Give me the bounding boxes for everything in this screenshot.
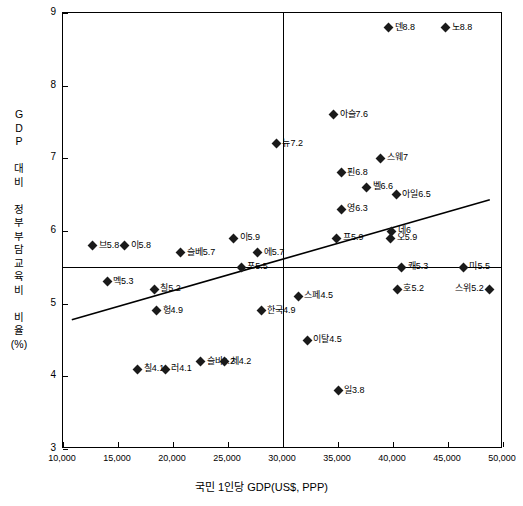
data-point-label: 슬베5.7 <box>187 247 216 257</box>
x-tick-label: 45,000 <box>424 453 470 463</box>
diamond-marker-icon <box>386 233 396 243</box>
diamond-marker-icon <box>384 23 394 33</box>
y-tick-label: 4 <box>36 369 56 380</box>
y-tick <box>63 86 68 87</box>
diamond-marker-icon <box>271 139 281 149</box>
x-tick <box>338 442 339 447</box>
data-point-label: 핀6.8 <box>347 167 368 177</box>
data-point-label: 이5.9 <box>240 232 261 242</box>
diamond-marker-icon <box>256 306 266 316</box>
diamond-marker-icon <box>329 110 339 120</box>
data-point-label: 캐5.3 <box>408 261 429 271</box>
diamond-marker-icon <box>253 248 263 258</box>
diamond-marker-icon <box>229 233 239 243</box>
diamond-marker-icon <box>120 241 130 251</box>
data-point-label: 스위5.2 <box>455 283 484 293</box>
y-tick-label: 9 <box>36 6 56 17</box>
diamond-marker-icon <box>336 168 346 178</box>
diamond-marker-icon <box>458 262 468 272</box>
diamond-marker-icon <box>196 357 206 367</box>
diamond-marker-icon <box>336 204 346 214</box>
x-tick-label: 40,000 <box>369 453 415 463</box>
x-tick <box>503 442 504 447</box>
x-tick <box>448 442 449 447</box>
x-axis-title: 국민 1인당 GDP(US$, PPP) <box>0 478 523 494</box>
diamond-marker-icon <box>485 284 495 294</box>
plot-area: 브5.8멕5.3이5.8칠5.2헝4.9칠4.1러4.1슬베5.7슬바4.2체4… <box>62 12 502 448</box>
data-point-label: 노8.8 <box>452 22 473 32</box>
data-point-label: 에5.7 <box>264 247 285 257</box>
reference-line-horizontal <box>63 267 501 268</box>
data-point-label: 스페4.5 <box>304 290 333 300</box>
diamond-marker-icon <box>302 335 312 345</box>
data-point-label: 영6.3 <box>347 203 368 213</box>
diamond-marker-icon <box>293 291 303 301</box>
x-tick-label: 35,000 <box>314 453 360 463</box>
y-axis-title: GDP 대비 정부부담교육비 비율(%) <box>6 108 32 351</box>
diamond-marker-icon <box>88 241 98 251</box>
diamond-marker-icon <box>236 262 246 272</box>
data-point-label: 포5.5 <box>247 261 268 271</box>
data-point-label: 이탈4.5 <box>313 334 342 344</box>
data-point-label: 프5.9 <box>343 232 364 242</box>
data-point-label: 이5.8 <box>131 240 152 250</box>
x-tick <box>393 442 394 447</box>
x-tick <box>173 442 174 447</box>
data-point-label: 뉴7.2 <box>282 138 303 148</box>
data-point-label: 한국4.9 <box>267 305 296 315</box>
diamond-marker-icon <box>332 233 342 243</box>
data-point-label: 브5.8 <box>99 240 120 250</box>
diamond-marker-icon <box>441 23 451 33</box>
x-tick-label: 50,000 <box>479 453 523 463</box>
x-tick-label: 10,000 <box>39 453 85 463</box>
y-tick <box>63 158 68 159</box>
x-tick-label: 15,000 <box>94 453 140 463</box>
y-tick <box>63 304 68 305</box>
reference-line-vertical <box>283 13 284 447</box>
scatter-chart: GDP 대비 정부부담교육비 비율(%) 브5.8멕5.3이5.8칠5.2헝4.… <box>0 0 523 506</box>
data-point-label: 헝4.9 <box>163 305 184 315</box>
y-tick <box>63 13 68 14</box>
data-point-label: 오5.9 <box>397 232 418 242</box>
x-tick-label: 25,000 <box>204 453 250 463</box>
data-point-label: 아슬7.6 <box>340 109 369 119</box>
diamond-marker-icon <box>133 364 143 374</box>
y-tick-label: 3 <box>36 442 56 453</box>
data-point-label: 호5.2 <box>403 283 424 293</box>
diamond-marker-icon <box>176 248 186 258</box>
diamond-marker-icon <box>333 386 343 396</box>
y-tick-label: 7 <box>36 151 56 162</box>
y-tick <box>63 231 68 232</box>
y-tick <box>63 449 68 450</box>
diamond-marker-icon <box>362 182 372 192</box>
data-point-label: 체4.2 <box>231 356 252 366</box>
data-point-label: 덴8.8 <box>395 22 416 32</box>
y-tick-label: 8 <box>36 79 56 90</box>
data-point-label: 일3.8 <box>344 385 365 395</box>
y-tick-label: 6 <box>36 224 56 235</box>
diamond-marker-icon <box>376 153 386 163</box>
data-point-label: 칠5.2 <box>160 283 181 293</box>
diamond-marker-icon <box>149 284 159 294</box>
x-tick-label: 30,000 <box>259 453 305 463</box>
diamond-marker-icon <box>397 262 407 272</box>
data-point-label: 미5.5 <box>469 261 490 271</box>
diamond-marker-icon <box>102 277 112 287</box>
x-tick <box>63 442 64 447</box>
y-tick-label: 5 <box>36 297 56 308</box>
x-tick <box>118 442 119 447</box>
diamond-marker-icon <box>152 306 162 316</box>
data-point-label: 벨6.6 <box>373 181 394 191</box>
diamond-marker-icon <box>392 284 402 294</box>
data-point-label: 멕5.3 <box>113 276 134 286</box>
data-point-label: 스웨7 <box>387 152 408 162</box>
data-point-label: 러4.1 <box>171 363 192 373</box>
data-point-label: 아일6.5 <box>402 189 431 199</box>
x-tick-label: 20,000 <box>149 453 195 463</box>
y-tick <box>63 376 68 377</box>
x-tick <box>228 442 229 447</box>
